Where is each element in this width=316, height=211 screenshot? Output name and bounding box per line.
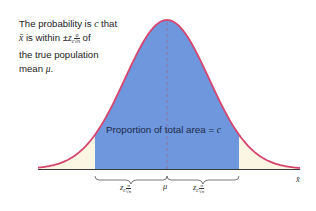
x-axis-label: x̄ — [296, 174, 300, 184]
mu-label: μ — [163, 181, 167, 191]
area-label: Proportion of total area = c — [106, 124, 221, 135]
probability-caption: The probability is c that x̄ is within ±… — [19, 17, 139, 76]
left-interval-label: zcσ√n — [120, 182, 131, 194]
right-interval-label: zcσ√n — [193, 182, 204, 194]
